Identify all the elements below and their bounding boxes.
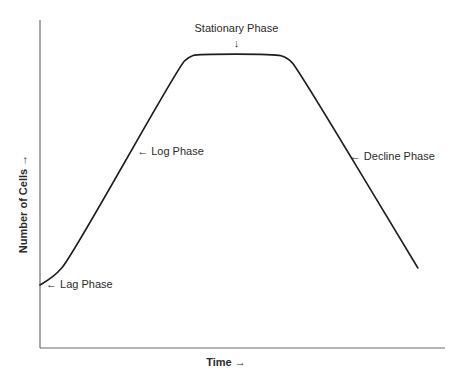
axes bbox=[40, 20, 445, 348]
annotation-log-phase: ← Log Phase bbox=[137, 145, 204, 157]
x-axis-label: Time → bbox=[206, 356, 246, 368]
annotation-decline-phase: ← Decline Phase bbox=[350, 150, 435, 162]
annotation-stationary-phase: Stationary Phase bbox=[195, 22, 279, 34]
phase-annotations: ← Lag Phase← Log PhaseStationary Phase↓←… bbox=[46, 22, 435, 290]
y-axis-label: Number of Cells → bbox=[17, 155, 29, 253]
annotation-lag-phase: ← Lag Phase bbox=[46, 278, 113, 290]
growth-curve-chart: Time → Number of Cells → ← Lag Phase← Lo… bbox=[0, 0, 469, 381]
down-arrow-icon: ↓ bbox=[234, 37, 240, 49]
growth-curve-line bbox=[40, 54, 418, 285]
